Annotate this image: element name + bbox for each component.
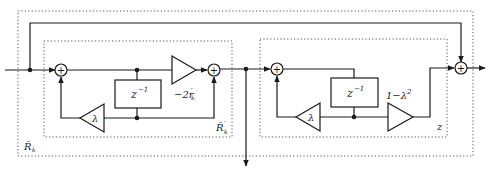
delay-1-exponent: −1	[138, 86, 148, 94]
gain-reflection-sub: k	[191, 94, 195, 101]
block-diagram: + z −1 −2r ′ k + λ R̄ ′ k + z −1 λ 1−λ 2…	[0, 0, 494, 172]
inner-box-1-sup: ′	[224, 120, 226, 128]
summer-1-plus: +	[57, 65, 65, 76]
delay-block-1	[115, 80, 161, 108]
inner-box-1-sub: k	[224, 128, 228, 135]
wire-lambda1-to-s1	[61, 77, 80, 118]
summer-final-plus: +	[457, 63, 465, 74]
gain-one-minus-sup: 2	[406, 88, 412, 96]
bypass-wire	[30, 23, 461, 70]
wire-s3-to-delay2	[283, 69, 354, 78]
outer-box-label: R̄	[23, 141, 32, 152]
delay-1-label: z	[130, 88, 137, 101]
gain-one-minus-label: 1−λ	[386, 90, 407, 101]
inner-box-1-label: R̄	[215, 122, 224, 133]
gain-reflection-triangle	[172, 56, 196, 84]
wire-lambda2-to-s3	[277, 76, 296, 117]
wire-gain2-to-final-sum	[413, 68, 454, 117]
gain-lambda-2-label: λ	[307, 112, 314, 123]
gain-lambda-1-label: λ	[91, 113, 98, 124]
delay-2-exponent: −1	[354, 85, 364, 93]
outer-box-sub: k	[32, 146, 36, 153]
inner-box-2-label: z	[436, 121, 443, 132]
summer-3-plus: +	[273, 64, 281, 75]
summer-2-plus: +	[210, 65, 218, 76]
gain-one-minus-lambda-sq-triangle	[388, 103, 413, 131]
delay-2-label: z	[346, 87, 353, 100]
